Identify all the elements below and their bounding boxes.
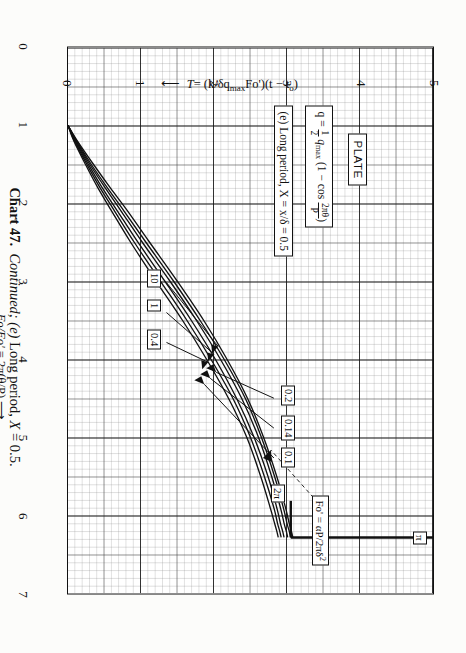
- figure-page: 10 1 0.4 0.2 0.14 0.1 π 2π Fo' = αP/2πδ2…: [0, 0, 466, 653]
- plot-area: 10 1 0.4 0.2 0.14 0.1 π 2π Fo' = αP/2πδ2…: [67, 46, 434, 594]
- equation-close: ): [316, 218, 328, 222]
- fo-definition-text: Fo' = αP/2πδ: [314, 500, 326, 556]
- grid-and-curves: [68, 47, 433, 593]
- caption-continued: Continued;: [7, 253, 23, 318]
- equation-box: q = 12 qmax (1 − cos 2πθP): [305, 105, 333, 227]
- plate-box: PLATE: [348, 133, 367, 185]
- y-axis-label-sub: max: [230, 82, 246, 92]
- y-axis-label-eq: = (k/δq: [194, 77, 230, 91]
- equation-one-half: 12: [309, 129, 329, 136]
- equation-fraction-numerator: 2πθ: [319, 202, 330, 218]
- plot-frame: 10 1 0.4 0.2 0.14 0.1 π 2π Fo' = αP/2πδ2…: [67, 46, 434, 594]
- curve-label-1: 1: [147, 299, 161, 311]
- curve-label-0-1: 0.1: [281, 447, 295, 467]
- curve-label-0-4: 0.4: [147, 329, 161, 349]
- fo-definition-exponent: 2: [318, 556, 327, 560]
- equation-fraction: 2πθP: [309, 202, 329, 218]
- caption-text: Long period,: [7, 342, 23, 417]
- y-axis-label: ⟵ T= (k/δqmaxFo')(t − to): [20, 76, 440, 93]
- y-axis-label-eq2: Fo')(t − t: [245, 77, 289, 91]
- curve-label-0-2: 0.2: [281, 385, 295, 405]
- rotated-figure: 10 1 0.4 0.2 0.14 0.1 π 2π Fo' = αP/2πδ2…: [0, 0, 466, 653]
- y-axis-label-main: T: [187, 77, 194, 91]
- equation-q: q: [316, 139, 328, 145]
- fo-definition-box: Fo' = αP/2πδ2: [312, 495, 329, 565]
- figure-caption: Chart 47. Continued; (e) Long period, X …: [6, 0, 23, 653]
- caption-variable: X: [7, 420, 23, 429]
- y-axis-label-end: ): [294, 77, 298, 91]
- equation-lhs: q =: [316, 111, 328, 129]
- equation-fraction-denominator: P: [309, 202, 319, 218]
- two-pi-label: 2π: [271, 484, 285, 502]
- caption-number: Chart 47.: [7, 187, 23, 246]
- equation-q-sub: max: [314, 144, 323, 158]
- curve-label-0-14: 0.14: [281, 415, 295, 440]
- curve-label-10: 10: [147, 269, 161, 287]
- caption-equals: = 0.5.: [7, 433, 23, 467]
- caption-part: (e): [7, 322, 23, 338]
- y-axis-arrow: ⟵: [161, 77, 180, 91]
- case-description-box: (e) Long period, X = x/δ = 0.5: [274, 105, 293, 256]
- equation-open: (1 − cos: [316, 161, 328, 201]
- pi-label: π: [413, 531, 427, 544]
